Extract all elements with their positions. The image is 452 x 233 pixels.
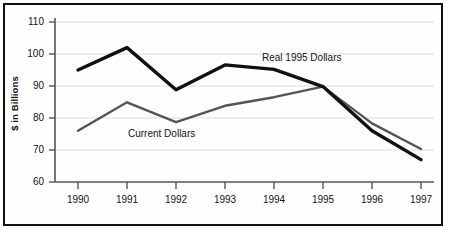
y-tick-label-110: 110 xyxy=(18,16,44,27)
x-tick-label-1993: 1993 xyxy=(203,194,247,205)
x-tick-label-1997: 1997 xyxy=(399,194,443,205)
y-tick-label-80: 80 xyxy=(18,112,44,123)
y-tick-label-90: 90 xyxy=(18,80,44,91)
y-axis xyxy=(49,18,55,182)
x-tick-label-1995: 1995 xyxy=(301,194,345,205)
line-chart: $ in Billions 110 100 90 80 70 60 1990 1… xyxy=(0,0,452,233)
gridlines xyxy=(55,22,434,150)
x-tick-label-1991: 1991 xyxy=(105,194,149,205)
x-axis xyxy=(55,182,434,189)
y-tick-label-70: 70 xyxy=(18,144,44,155)
x-tick-label-1992: 1992 xyxy=(154,194,198,205)
x-tick-label-1994: 1994 xyxy=(252,194,296,205)
y-tick-label-60: 60 xyxy=(18,176,44,187)
x-tick-label-1996: 1996 xyxy=(350,194,394,205)
x-tick-label-1990: 1990 xyxy=(56,194,100,205)
y-tick-label-100: 100 xyxy=(18,48,44,59)
series-annotation-current-dollars: Current Dollars xyxy=(128,128,195,139)
series-annotation-real-1995-dollars: Real 1995 Dollars xyxy=(262,52,342,63)
